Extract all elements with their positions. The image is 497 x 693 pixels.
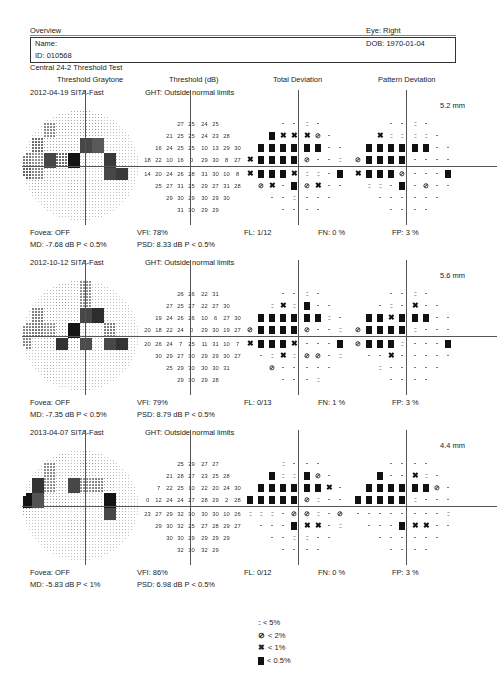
threshold-value: 31 bbox=[210, 338, 221, 350]
threshold-value: 10 bbox=[199, 142, 210, 154]
pattern-deviation-point bbox=[375, 338, 385, 349]
threshold-value: 29 bbox=[199, 180, 210, 192]
pattern-deviation-point bbox=[432, 142, 442, 153]
pattern-deviation-point bbox=[386, 168, 396, 179]
threshold-value: 30 bbox=[210, 324, 221, 336]
total-deviation-point: :: bbox=[313, 494, 323, 505]
total-deviation-point bbox=[278, 142, 288, 153]
total-deviation-point: ✖ bbox=[245, 168, 255, 179]
pattern-deviation-point bbox=[443, 494, 453, 505]
pattern-deviation-point bbox=[443, 312, 453, 323]
pattern-deviation-point bbox=[397, 142, 407, 153]
threshold-value: 29 bbox=[186, 532, 197, 544]
threshold-value: 32 bbox=[199, 544, 210, 556]
legend-2pct: < 2% bbox=[268, 630, 285, 643]
total-deviation-point bbox=[278, 494, 288, 505]
threshold-value: 0 bbox=[186, 154, 197, 166]
total-deviation-point: ⊘ bbox=[302, 350, 312, 361]
pattern-deviation-point bbox=[386, 508, 396, 519]
total-deviation-point bbox=[324, 508, 334, 519]
pattern-deviation-point bbox=[432, 192, 442, 203]
pattern-deviation-point bbox=[375, 520, 385, 531]
threshold-value: 20 bbox=[153, 168, 164, 180]
false-positives: FP: 3 % bbox=[392, 228, 419, 237]
total-deviation-point bbox=[302, 312, 312, 323]
threshold-value: 30 bbox=[186, 544, 197, 556]
total-deviation-point bbox=[324, 532, 334, 543]
pattern-deviation-point bbox=[397, 362, 407, 373]
threshold-value: 29 bbox=[199, 154, 210, 166]
significance-legend: ::< 5% ⊘< 2% ✖< 1% < 0.5% bbox=[258, 617, 291, 667]
threshold-value: 27 bbox=[186, 494, 197, 506]
threshold-value: 27 bbox=[153, 508, 164, 520]
pattern-deviation-point bbox=[375, 482, 385, 493]
threshold-haxis bbox=[140, 506, 248, 507]
total-deviation-point bbox=[256, 168, 266, 179]
total-deviation-point bbox=[278, 482, 288, 493]
threshold-value: 29 bbox=[153, 520, 164, 532]
total-deviation-point: :: bbox=[289, 532, 299, 543]
total-deviation-point: :: bbox=[335, 520, 345, 531]
threshold-value: 28 bbox=[221, 130, 232, 142]
pattern-deviation-point bbox=[386, 362, 396, 373]
threshold-value: 29 bbox=[210, 544, 221, 556]
threshold-value: 28 bbox=[210, 520, 221, 532]
pattern-deviation-point bbox=[421, 192, 431, 203]
total-deviation-point: ⊘ bbox=[245, 324, 255, 335]
threshold-value: 30 bbox=[175, 192, 186, 204]
total-deviation-point: ✖ bbox=[313, 520, 323, 531]
patient-dob: DOB: 1970-01-04 bbox=[366, 39, 425, 48]
threshold-value: 24 bbox=[164, 168, 175, 180]
total-deviation-point bbox=[289, 154, 299, 165]
fovea-status: Fovea: OFF bbox=[30, 228, 70, 237]
pattern-deviation-point bbox=[432, 338, 442, 349]
threshold-value: 10 bbox=[221, 168, 232, 180]
threshold-value: 10 bbox=[199, 312, 210, 324]
threshold-value: 21 bbox=[164, 470, 175, 482]
test-section: 2012-10-12 SITA-FastGHT: Outside normal … bbox=[0, 258, 495, 428]
pattern-deviation-point bbox=[410, 168, 420, 179]
total-deviation-point bbox=[289, 180, 299, 191]
total-deviation-point bbox=[335, 338, 345, 349]
threshold-value: 13 bbox=[210, 142, 221, 154]
pattern-deviation-point bbox=[397, 520, 407, 531]
pattern-deviation-point bbox=[386, 458, 396, 469]
pattern-deviation-point bbox=[421, 142, 431, 153]
threshold-value: 30 bbox=[199, 192, 210, 204]
threshold-value: 16 bbox=[153, 142, 164, 154]
threshold-value: 30 bbox=[175, 532, 186, 544]
pattern-deviation-point bbox=[443, 338, 453, 349]
total-deviation-point bbox=[256, 154, 266, 165]
total-deviation-point bbox=[335, 142, 345, 153]
total-deviation-point bbox=[289, 374, 299, 385]
pattern-deviation-point: ⊘ bbox=[397, 168, 407, 179]
total-deviation-point: :: bbox=[335, 324, 345, 335]
report-title: Overview bbox=[30, 26, 61, 35]
pattern-deviation-point bbox=[421, 312, 431, 323]
total-deviation-point bbox=[324, 520, 334, 531]
pattern-deviation-point bbox=[421, 458, 431, 469]
total-deviation-point: ✖ bbox=[302, 130, 312, 141]
threshold-value: 29 bbox=[210, 350, 221, 362]
false-negatives: FN: 0 % bbox=[318, 228, 345, 237]
threshold-value: 27 bbox=[175, 118, 186, 130]
threshold-value: 0 bbox=[186, 324, 197, 336]
threshold-value: 30 bbox=[221, 300, 232, 312]
total-deviation-point bbox=[267, 520, 277, 531]
total-deviation-point: :: bbox=[335, 350, 345, 361]
total-deviation-point bbox=[313, 154, 323, 165]
divider bbox=[30, 35, 456, 36]
total-deviation-point bbox=[313, 482, 323, 493]
total-deviation-point bbox=[278, 532, 288, 543]
pattern-deviation-point bbox=[386, 180, 396, 191]
total-deviation-point bbox=[278, 508, 288, 519]
threshold-value: 32 bbox=[175, 544, 186, 556]
total-deviation-point bbox=[289, 142, 299, 153]
threshold-value: 30 bbox=[186, 204, 197, 216]
total-deviation-point bbox=[313, 362, 323, 373]
threshold-value: 26 bbox=[175, 168, 186, 180]
total-deviation-point: :: bbox=[324, 312, 334, 323]
total-deviation-point bbox=[256, 520, 266, 531]
threshold-value: 27 bbox=[199, 520, 210, 532]
threshold-value: 30 bbox=[221, 350, 232, 362]
